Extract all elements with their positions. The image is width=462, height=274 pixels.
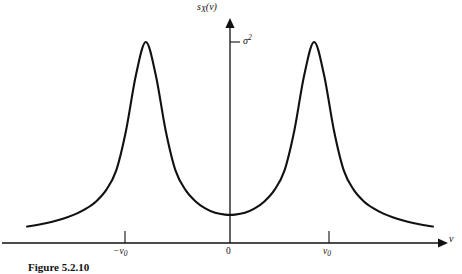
x-tick-label-zero-main: 0	[226, 246, 231, 256]
y-tick-label-sigma-squared: σ2	[243, 34, 252, 46]
x-tick-label-nu0-sub: 0	[327, 249, 331, 258]
psd-plot	[0, 0, 462, 274]
x-tick-label-nu0: ν0	[323, 247, 331, 258]
y-axis-title: sX(ν)	[197, 2, 217, 14]
x-tick-label-neg-nu0-main: −ν	[113, 246, 124, 256]
x-axis-arrowhead	[438, 238, 448, 247]
y-axis-title-argument: (ν)	[206, 1, 217, 12]
sigma-exponent: 2	[248, 33, 252, 42]
figure-container: sX(ν) σ2 −ν0 0 ν0 ν Figure 5.2.10	[0, 0, 462, 274]
x-axis-title: ν	[449, 234, 453, 244]
x-tick-label-zero: 0	[226, 247, 231, 258]
y-axis-arrowhead	[225, 18, 234, 28]
x-axis	[2, 238, 448, 247]
x-tick-label-neg-nu0-sub: 0	[124, 249, 128, 258]
y-axis	[225, 18, 234, 243]
x-tick-label-neg-nu0: −ν0	[113, 247, 127, 258]
figure-caption: Figure 5.2.10	[28, 262, 89, 273]
